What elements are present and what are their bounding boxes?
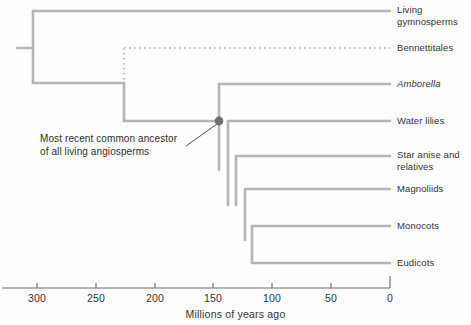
phylogeny-figure: Living gymnosperms Bennettitales Amborel… <box>0 0 471 325</box>
tip-label-living-gymnosperms: Living gymnosperms <box>397 4 458 27</box>
tip-label-water-lilies: Water lilies <box>397 115 444 127</box>
x-axis <box>2 276 390 288</box>
axis-tick-label-300: 300 <box>28 292 46 304</box>
tip-label-monocots: Monocots <box>397 220 439 232</box>
axis-tick-label-0: 0 <box>387 292 393 304</box>
mrca-node-marker <box>215 117 224 126</box>
tip-label-amborella: Amborella <box>397 78 441 90</box>
x-axis-title: Millions of years ago <box>0 308 471 320</box>
branch-bennettitales-dotted <box>124 48 390 83</box>
tip-label-star-anise-and-relatives: Star anise and relatives <box>397 149 460 172</box>
tip-label-magnoliids: Magnoliids <box>397 183 443 195</box>
axis-tick-label-100: 100 <box>263 292 281 304</box>
axis-tick-label-250: 250 <box>87 292 105 304</box>
tip-label-bennettitales: Bennettitales <box>397 42 453 54</box>
annotation-leader-line <box>186 124 217 146</box>
axis-tick-label-50: 50 <box>325 292 337 304</box>
axis-tick-label-150: 150 <box>204 292 222 304</box>
mrca-annotation-text: Most recent common ancestor of all livin… <box>40 133 177 158</box>
axis-tick-label-200: 200 <box>146 292 164 304</box>
tip-label-eudicots: Eudicots <box>397 257 434 269</box>
